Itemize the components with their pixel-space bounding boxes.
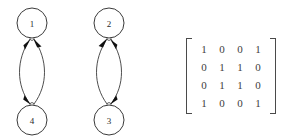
arrowhead-from-node-2 [110, 39, 117, 49]
arrowhead-into-node-1 [33, 39, 41, 48]
matrix-cell: 1 [213, 80, 231, 91]
matrix-cell: 1 [231, 80, 249, 91]
arrowhead-from-node-1 [23, 39, 30, 49]
node-label-3: 3 [107, 116, 112, 126]
arrowhead-into-node-2 [99, 39, 107, 48]
matrix-cell: 0 [213, 98, 231, 109]
matrix-row: 0 1 1 0 [195, 76, 267, 94]
node-label-2: 2 [107, 19, 112, 29]
node-label-1: 1 [30, 19, 35, 29]
node-label-4: 4 [30, 116, 35, 126]
graph-svg: 1 4 2 3 [0, 0, 150, 140]
figure-canvas: 1 4 2 3 [0, 0, 283, 140]
matrix-cell: 1 [231, 62, 249, 73]
matrix-cell: 0 [249, 80, 267, 91]
matrix-left-bracket [186, 38, 193, 114]
matrix-grid: 1 0 0 1 0 1 1 0 0 1 1 0 1 0 0 1 [193, 38, 269, 114]
component-left: 1 4 [17, 8, 47, 135]
edge-arc-4-to-1 [34, 39, 45, 104]
edge-arc-2-to-3 [97, 39, 108, 104]
graph-diagram: 1 4 2 3 [0, 0, 150, 140]
arrowhead-from-node-4 [23, 95, 30, 104]
matrix-cell: 0 [231, 44, 249, 55]
matrix-right-bracket [269, 38, 276, 114]
edge-arc-3-to-2 [111, 39, 122, 104]
matrix-cell: 0 [195, 80, 213, 91]
matrix-cell: 0 [249, 62, 267, 73]
matrix-row: 1 0 0 1 [195, 94, 267, 112]
matrix-row: 0 1 1 0 [195, 58, 267, 76]
matrix-cell: 1 [249, 98, 267, 109]
adjacency-matrix: 1 0 0 1 0 1 1 0 0 1 1 0 1 0 0 1 [186, 38, 276, 114]
matrix-cell: 1 [195, 44, 213, 55]
matrix-cell: 1 [195, 98, 213, 109]
arrowhead-from-node-3 [110, 95, 117, 104]
matrix-cell: 0 [195, 62, 213, 73]
matrix-cell: 1 [249, 44, 267, 55]
matrix-cell: 1 [213, 62, 231, 73]
component-right: 2 3 [94, 8, 124, 135]
matrix-cell: 0 [213, 44, 231, 55]
matrix-row: 1 0 0 1 [195, 40, 267, 58]
matrix-cell: 0 [231, 98, 249, 109]
